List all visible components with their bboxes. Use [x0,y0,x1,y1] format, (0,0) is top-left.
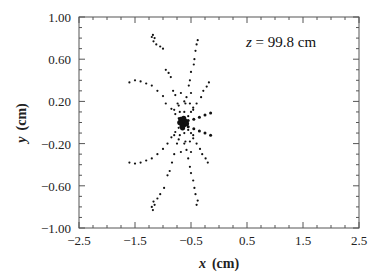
series-upper-right-arm [187,81,210,117]
data-point [145,82,147,84]
data-point [163,187,165,189]
data-point [192,109,194,111]
data-point [170,136,172,138]
data-point [169,170,171,172]
y-axis-var: y [14,136,29,145]
data-point [183,111,185,113]
data-point [178,105,180,107]
data-point [192,134,194,136]
data-point [156,153,158,155]
data-point [189,140,191,142]
data-point [156,197,158,199]
series-upper-left-far-arm [151,34,181,113]
axis-ticks [79,17,359,228]
data-point [190,132,192,134]
data-point [192,179,194,181]
x-axis-title: x(cm) [198,256,240,272]
data-point [181,116,186,121]
data-point [194,193,196,195]
data-point [166,143,168,145]
x-tick-label: 2.5 [351,233,367,248]
data-point [162,48,164,50]
data-point [159,193,161,195]
data-point [192,137,194,139]
data-point [196,204,198,206]
data-point [159,45,161,47]
data-point [174,113,176,115]
data-point [187,157,189,159]
y-axis-title: y(cm) [14,103,30,145]
data-point [194,50,196,52]
data-point [173,109,175,111]
data-point [178,138,180,140]
x-tick-label: 1.5 [295,233,311,248]
data-point [189,102,191,104]
data-point [192,107,194,109]
data-point [170,108,172,110]
data-point [172,90,174,92]
data-point [179,134,181,136]
data-point [193,63,195,65]
data-point [196,143,198,145]
data-point [185,149,187,151]
data-point [206,86,208,88]
data-point [162,95,164,97]
data-point [152,201,154,203]
scatter-chart: −2.5−1.5−0.50.51.52.5 1.000.600.20−0.20−… [0,0,378,279]
data-point [193,187,195,189]
data-point [208,81,210,83]
data-point [200,96,202,98]
data-point [173,153,175,155]
data-point [187,115,189,117]
data-point [190,111,192,113]
x-tick-label: 0.5 [239,233,255,248]
data-point [134,79,136,81]
data-point [185,96,187,98]
data-point [193,58,195,60]
data-point [190,151,192,153]
data-point [145,159,147,161]
data-point [174,131,176,133]
data-point [198,116,201,119]
data-point [177,102,179,104]
data-point [180,125,185,130]
y-tick-label: 0.60 [48,52,71,67]
data-point [151,206,153,208]
data-point [152,209,154,211]
data-point [156,90,158,92]
series-upper-arm [183,39,199,113]
data-point [151,36,153,38]
data-point [173,134,175,136]
data-point [209,134,212,137]
data-point [151,157,153,159]
z-annotation: z = 99.8 cm [245,34,316,50]
data-point [183,132,185,134]
data-point [152,34,154,36]
data-point [170,76,172,78]
data-point [190,92,192,94]
y-tick-label: 1.00 [48,10,71,25]
data-point [205,157,207,159]
x-axis-var: x [198,256,206,271]
x-axis-unit: (cm) [212,256,240,272]
data-point [207,162,209,164]
data-point [165,102,167,104]
data-point [197,200,199,202]
data-point [189,166,191,168]
data-point [192,127,195,130]
data-point [184,140,186,142]
y-tick-label: −0.60 [41,179,71,194]
x-tick-label: −0.5 [179,233,203,248]
data-point [168,72,170,74]
z-annotation-text: = 99.8 cm [252,34,317,50]
data-point [155,43,157,45]
data-point [190,71,192,73]
x-tick-label: −1.5 [123,233,147,248]
data-point [178,127,180,129]
plot-frame [79,17,359,228]
series-upper-left-near-arm [128,79,180,119]
data-point [183,143,185,145]
data-point [188,85,190,87]
data-point [152,40,154,42]
y-tick-label: −1.00 [41,221,71,236]
